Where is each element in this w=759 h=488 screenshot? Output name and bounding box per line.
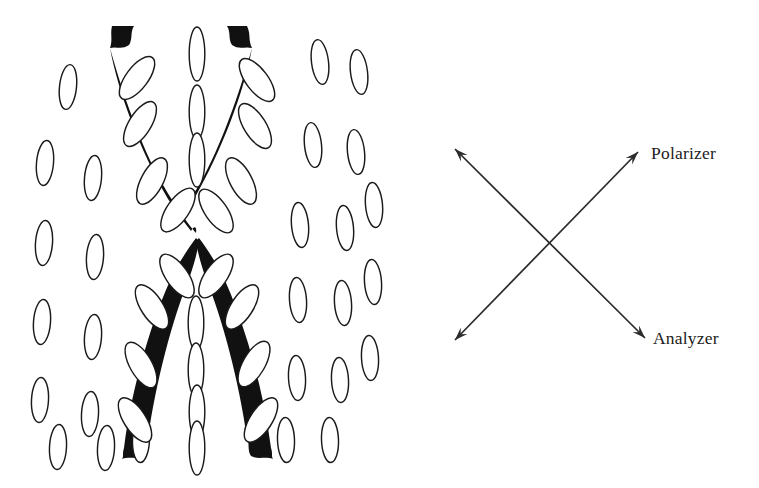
director-ellipse-center [188,296,204,350]
figure-background [0,0,759,488]
director-ellipse-center [189,27,205,81]
figure-root: Polarizer Analyzer [0,0,759,488]
director-ellipse-center [189,133,205,187]
analyzer-label: Analyzer [653,328,719,348]
director-ellipse-center [189,421,205,475]
director-ellipse-center [189,85,205,139]
polarizer-label: Polarizer [651,143,716,163]
liquid-crystal-figure: Polarizer Analyzer [0,0,759,488]
